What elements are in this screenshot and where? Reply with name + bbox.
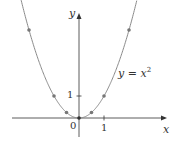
x-axis-label: x: [163, 124, 169, 135]
curve-label: y = x2: [118, 67, 151, 79]
y-axis-label: y: [69, 8, 75, 19]
y-tick-label-1: 1: [67, 90, 73, 100]
data-point: [27, 28, 31, 32]
data-point: [102, 94, 106, 98]
x-axis-arrow-icon: [161, 116, 167, 121]
y-axis-arrow-icon: [77, 13, 82, 19]
data-point: [90, 111, 94, 115]
data-point: [65, 111, 69, 115]
origin-label: 0: [70, 121, 76, 131]
data-point: [52, 94, 56, 98]
data-point: [127, 28, 131, 32]
x-tick-label-1: 1: [101, 123, 107, 133]
data-point: [77, 116, 81, 120]
